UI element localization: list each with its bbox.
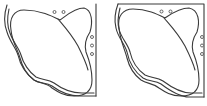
- jet-icon: [169, 10, 172, 13]
- seat-line: [164, 18, 195, 70]
- bathtub-figure-2: Corner bathtub (with top edge): [103, 0, 207, 106]
- jet-icon: [201, 44, 204, 47]
- jet-icon: [91, 44, 94, 47]
- tub-outer-shell: [5, 5, 96, 96]
- jet-icon: [53, 11, 56, 14]
- seat-line: [58, 19, 88, 70]
- jet-icon: [62, 11, 65, 14]
- jet-icon: [201, 36, 204, 39]
- tub-rim-line: [118, 8, 202, 93]
- jet-icon: [91, 36, 94, 39]
- corner-bathtub-drawing: [103, 0, 207, 106]
- tub-basin: [11, 8, 92, 96]
- jet-icon: [160, 10, 163, 13]
- wall-line: [118, 4, 204, 97]
- corner-bathtub-drawing: [0, 0, 104, 106]
- jet-icon: [91, 53, 94, 56]
- jet-icon: [201, 53, 204, 56]
- tub-outer-shell: [115, 4, 204, 97]
- bathtub-figure-1: Corner bathtub (open top edge): [0, 0, 104, 106]
